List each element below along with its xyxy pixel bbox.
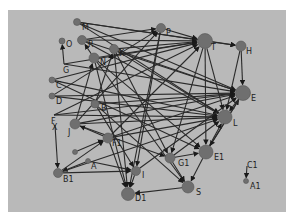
node-e[interactable]: [236, 86, 251, 101]
node-label-l: L: [233, 119, 238, 128]
node-r[interactable]: [78, 36, 87, 45]
node-label-b1: B1: [63, 175, 74, 184]
node-label-f1: F1: [112, 139, 122, 148]
node-c[interactable]: [49, 77, 55, 83]
node-j[interactable]: [70, 119, 80, 129]
node-label-a: A: [91, 162, 97, 171]
node-label-m: M: [82, 23, 89, 32]
edges-layer: [54, 23, 247, 194]
edge-h-to-e: [241, 51, 242, 85]
edge-e1-to-s: [191, 158, 203, 181]
edge-q-to-f1: [77, 140, 102, 151]
node-label-t: T: [210, 43, 216, 52]
node-label-e: E: [251, 94, 256, 103]
node-i[interactable]: [132, 167, 141, 176]
edge-b1-to-f1: [62, 141, 103, 170]
node-label-r: R: [88, 40, 94, 49]
node-label-s: S: [196, 188, 201, 197]
node-label-j: J: [67, 128, 70, 137]
node-l[interactable]: [218, 110, 232, 124]
node-label-p: P: [166, 28, 171, 37]
node-g1[interactable]: [165, 153, 175, 163]
network-canvas: MORKNPTHELGCDBFXJF1AB1ID1G1E1SC1A1: [8, 10, 286, 212]
node-d1[interactable]: [122, 188, 135, 201]
node-label-k: K: [119, 49, 125, 58]
node-label-c1: C1: [247, 161, 258, 170]
node-o[interactable]: [59, 38, 65, 44]
node-label-g1: G1: [178, 159, 189, 168]
network-graph: MORKNPTHELGCDBFXJF1AB1ID1G1E1SC1A1: [0, 0, 296, 219]
edge-s-to-d1: [135, 188, 182, 193]
node-label-b: B: [101, 104, 107, 113]
node-s[interactable]: [182, 181, 194, 193]
edge-j-to-l: [80, 117, 217, 123]
node-label-d1: D1: [135, 194, 146, 203]
node-label-g: G: [63, 66, 69, 75]
node-b[interactable]: [91, 100, 99, 108]
node-label-a1: A1: [250, 182, 261, 191]
node-label-c: C: [56, 81, 62, 90]
node-q[interactable]: [73, 150, 78, 155]
node-label-d: D: [56, 97, 62, 106]
node-a[interactable]: [86, 159, 91, 164]
node-label-i: I: [142, 171, 144, 180]
node-e1[interactable]: [199, 145, 213, 159]
node-d[interactable]: [49, 93, 55, 99]
node-h[interactable]: [236, 41, 246, 51]
edge-g-to-t: [64, 42, 197, 64]
edge-e-to-l: [230, 99, 239, 111]
node-k[interactable]: [110, 45, 119, 54]
edge-g-to-o: [62, 45, 64, 64]
node-b1[interactable]: [54, 169, 63, 178]
node-label-e1: E1: [214, 153, 224, 162]
node-m[interactable]: [74, 19, 81, 26]
edge-f1-to-j: [81, 126, 104, 136]
node-label-n: N: [100, 58, 106, 67]
edge-g1-to-e1: [175, 153, 198, 157]
node-n[interactable]: [89, 53, 99, 63]
node-a1[interactable]: [244, 179, 249, 184]
node-label-h: H: [246, 47, 252, 56]
node-label-x: X: [52, 123, 58, 132]
node-label-o: O: [66, 40, 72, 49]
node-p[interactable]: [157, 24, 166, 33]
